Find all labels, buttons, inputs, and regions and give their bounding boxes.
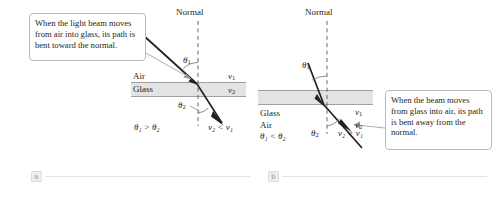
callout-panel-b: When the beam moves from glass into air,… (385, 90, 492, 150)
panel-b-speed-relation: v₂ > v₁ (338, 128, 363, 138)
panel-b-lower-medium-label: Air (260, 120, 272, 130)
panel-a-upper-medium-label: Air (133, 71, 145, 81)
panel-b-normal-label: Normal (305, 7, 333, 17)
panel-a-baseline-rule (45, 176, 250, 177)
refraction-figure: When the light beam moves from air into … (0, 0, 502, 201)
panel-a-normal-label: Normal (176, 7, 204, 17)
panel-a-angle-refraction-arc (198, 108, 208, 113)
panel-a-theta2-label: θ2 (178, 100, 186, 110)
panel-a-angle-relation: θ₁ > θ₂ (134, 122, 160, 132)
panel-a-theta2-leader (190, 106, 200, 111)
panel-a-badge: a (31, 171, 42, 182)
panel-a-v1-label: v1 (228, 71, 235, 81)
panel-b-theta1-label: θ1 (302, 60, 310, 70)
callout-panel-a: When the light beam moves from air into … (29, 13, 146, 61)
panel-a-theta1-label: θ1 (183, 55, 191, 65)
panel-b-badge: b (268, 171, 279, 182)
panel-a-v2-label: v2 (228, 85, 235, 95)
panel-b-v1-label: v1 (355, 107, 362, 117)
panel-b-baseline-rule (282, 176, 487, 177)
panel-b-upper-medium-label: Glass (260, 108, 280, 118)
panel-a-speed-relation: v₂ < v₁ (208, 122, 233, 132)
panel-b-angle-relation: θ₁ < θ₂ (260, 131, 286, 141)
panel-a-lower-medium-label: Glass (133, 84, 153, 94)
panel-b-theta2-label: θ2 (311, 128, 319, 138)
